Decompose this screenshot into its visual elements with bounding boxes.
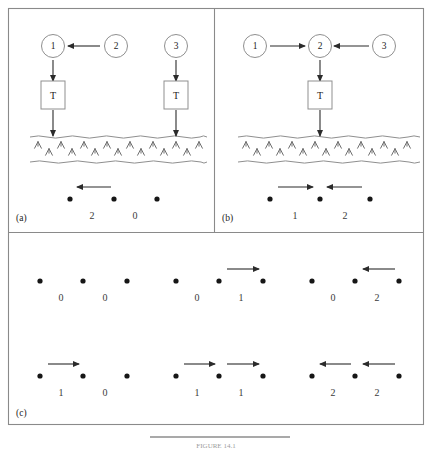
value-label: 2: [343, 210, 348, 221]
case-group: 00: [37, 278, 129, 302]
bus-dot: [352, 373, 357, 378]
bus-dot: [309, 373, 314, 378]
grass-icon: [115, 149, 122, 156]
case-group: 10: [37, 364, 129, 398]
grass-icon: [277, 149, 284, 156]
panel-a: TT12320(a): [16, 35, 207, 225]
bus-dot: [80, 278, 85, 283]
figure-caption: FIGURE 14.1: [196, 442, 236, 450]
node-3-label: 3: [382, 41, 387, 51]
transformer-box-right-label: T: [173, 90, 179, 101]
grass-icon: [46, 149, 53, 156]
bus-dot: [124, 373, 129, 378]
panel-c: 000102101122(c): [16, 269, 402, 419]
node-1-label: 1: [51, 41, 56, 51]
case-group: 22: [309, 364, 401, 398]
grass-icon: [92, 149, 99, 156]
value-label: 2: [375, 292, 380, 303]
grass-icon: [300, 149, 307, 156]
panel-label-b: (b): [222, 213, 233, 224]
bus-dot: [80, 373, 85, 378]
figure-canvas: TT12320(a) T12312(b) 000102101122(c) FIG…: [0, 0, 432, 451]
grass-icon: [312, 142, 319, 149]
bus-dot: [352, 278, 357, 283]
bus-dot: [216, 373, 221, 378]
value-label: 2: [90, 210, 95, 221]
node-1-label: 1: [253, 41, 258, 51]
bus-dot: [124, 278, 129, 283]
bus-dot: [173, 278, 178, 283]
ground-line-bottom: [30, 161, 207, 163]
case-group: 11: [173, 364, 265, 398]
bus-dot: [154, 196, 159, 201]
bus-dot: [37, 373, 42, 378]
figure-caption-block: FIGURE 14.1: [150, 437, 290, 450]
bus-dot: [216, 278, 221, 283]
bus-dot: [396, 278, 401, 283]
grass-icon: [392, 149, 399, 156]
value-label: 2: [331, 387, 336, 398]
figure-container: TT12320(a) T12312(b) 000102101122(c) FIG…: [0, 0, 432, 451]
grass-icon: [289, 142, 296, 149]
bus-dot: [260, 278, 265, 283]
value-label: 0: [103, 292, 108, 303]
panel-label-a: (a): [16, 213, 27, 224]
grass-icon: [369, 149, 376, 156]
value-label: 2: [375, 387, 380, 398]
grass-icon: [346, 149, 353, 156]
value-label: 1: [293, 210, 298, 221]
transformer-box-center-label: T: [317, 90, 323, 101]
grass-icon: [358, 142, 365, 149]
bus-dot: [260, 373, 265, 378]
panel-b: T12312(b): [222, 35, 420, 225]
case-group: 02: [309, 269, 401, 303]
value-label: 0: [331, 292, 336, 303]
grass-icon: [335, 142, 342, 149]
grass-icon: [184, 149, 191, 156]
bus-dot: [309, 278, 314, 283]
ground-line-top: [238, 136, 420, 138]
bus-dot: [267, 196, 272, 201]
value-label: 0: [103, 387, 108, 398]
value-label: 1: [239, 292, 244, 303]
value-label: 1: [239, 387, 244, 398]
case-group: 01: [173, 269, 265, 303]
figure-frame: [9, 9, 424, 425]
node-2-label: 2: [318, 41, 323, 51]
grass-icon: [323, 149, 330, 156]
grass-icon: [81, 142, 88, 149]
ground-line-bottom: [238, 161, 420, 163]
grass-icon: [404, 142, 411, 149]
value-label: 0: [59, 292, 64, 303]
grass-icon: [69, 149, 76, 156]
grass-icon: [161, 149, 168, 156]
grass-icon: [58, 142, 65, 149]
bus-dot: [396, 373, 401, 378]
grass-icon: [127, 142, 134, 149]
bus-dot: [317, 196, 322, 201]
bus-dot: [367, 196, 372, 201]
value-label: 0: [195, 292, 200, 303]
grass-icon: [196, 142, 203, 149]
transformer-box-left-label: T: [50, 90, 56, 101]
value-label: 1: [59, 387, 64, 398]
bus-dot: [111, 196, 116, 201]
grass-icon: [104, 142, 111, 149]
grass-icon: [173, 142, 180, 149]
value-label: 0: [133, 210, 138, 221]
bus-dot: [67, 196, 72, 201]
grass-icon: [243, 142, 250, 149]
grass-icon: [254, 149, 261, 156]
panel-label-c: (c): [16, 408, 27, 419]
grass-icon: [35, 142, 42, 149]
node-3-label: 3: [174, 41, 179, 51]
case-row-top: 000102: [37, 269, 401, 303]
grass-icon: [138, 149, 145, 156]
ground-line-top: [30, 136, 207, 138]
case-row-bottom: 101122: [37, 364, 401, 398]
grass-icon: [381, 142, 388, 149]
bus-dot: [37, 278, 42, 283]
grass-icon: [266, 142, 273, 149]
value-label: 1: [195, 387, 200, 398]
node-2-label: 2: [114, 41, 119, 51]
